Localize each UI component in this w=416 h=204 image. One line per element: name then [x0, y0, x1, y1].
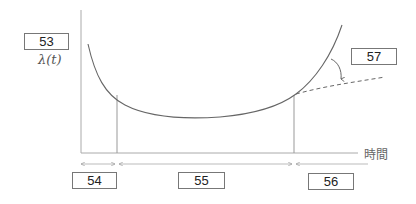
x-axis-label: 時間 — [364, 145, 388, 162]
box-57: 57 — [351, 48, 397, 65]
improved-curve-dashed — [296, 77, 385, 94]
failure-rate-curve — [88, 25, 342, 118]
box-56: 56 — [308, 173, 354, 190]
box-53: 53 — [24, 33, 69, 50]
improvement-arrow-icon — [331, 59, 341, 79]
box-55: 55 — [178, 172, 225, 189]
box-54: 54 — [72, 172, 117, 189]
y-axis-label: λ(t) — [38, 52, 62, 67]
